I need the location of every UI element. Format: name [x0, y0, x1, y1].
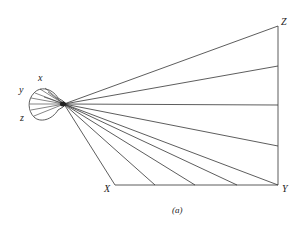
label-Y: Y	[282, 184, 288, 194]
eye-globe	[29, 89, 58, 120]
label-eye-z: z	[20, 113, 24, 123]
rays-to-XY	[64, 104, 237, 185]
figure-caption: (a)	[172, 205, 183, 215]
label-eye-x: x	[38, 73, 42, 83]
label-X: X	[104, 184, 110, 194]
rays-to-ZY	[64, 26, 278, 185]
perspective-diagram	[0, 0, 304, 226]
label-eye-y: y	[19, 85, 23, 95]
pinhole	[60, 102, 66, 107]
label-Z: Z	[281, 17, 287, 27]
